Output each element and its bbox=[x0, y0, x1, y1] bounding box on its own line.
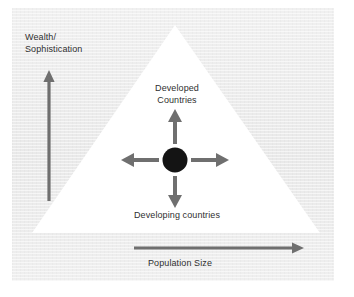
vertical-axis-label-line1: Wealth/ bbox=[25, 32, 82, 44]
segment-label-developed-line1: Developed bbox=[0, 83, 354, 95]
segment-label-developing-countries: Developing countries bbox=[0, 210, 354, 221]
horizontal-axis-arrow bbox=[134, 242, 304, 253]
vertical-axis-label-line2: Sophistication bbox=[25, 44, 82, 56]
segment-label-developed-line2: Countries bbox=[0, 95, 354, 107]
segment-label-developed-countries: Developed Countries bbox=[0, 83, 354, 106]
vertical-axis-label: Wealth/ Sophistication bbox=[25, 32, 82, 55]
figure-root: Wealth/ Sophistication Developed Countri… bbox=[0, 0, 354, 297]
center-marker-circle bbox=[163, 148, 188, 173]
horizontal-axis-label: Population Size bbox=[0, 258, 354, 269]
